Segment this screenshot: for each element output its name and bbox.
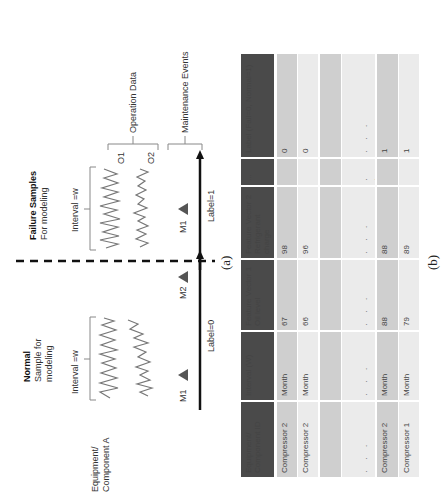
cell-interval: Month	[399, 330, 419, 400]
normal-m1-label: M1	[178, 389, 188, 402]
cell-equipment-id	[320, 400, 341, 477]
caption-b: (b)	[425, 255, 441, 270]
cell-feature-1: 88	[377, 258, 398, 330]
failure-label-value: Label=1	[206, 190, 216, 222]
caption-a: (a)	[218, 256, 234, 270]
cell-ellipsis	[277, 157, 297, 185]
cell-equipment-id: · · ·	[342, 400, 375, 477]
cell-feature-1: 79	[399, 258, 419, 330]
cell-feature-2: 89	[399, 185, 419, 258]
table-row: Compressor 2 Month 67 98 0	[277, 54, 297, 477]
cell-ellipsis	[320, 157, 341, 185]
cell-feature-1: 67	[277, 258, 297, 330]
cell-feature-2: 88	[377, 185, 398, 258]
table-row-ellipsis: · · · · · · · · · · · · · · · · · ·	[342, 54, 375, 477]
table-row: Compressor 1 Month 79 89 1	[399, 54, 419, 477]
cell-feature-2: 98	[277, 185, 297, 258]
header-interval: Interval (W)	[241, 330, 274, 400]
cell-ellipsis	[399, 157, 419, 185]
header-ellipsis: ...	[241, 157, 274, 185]
cell-equipment-id: Compressor 2	[277, 400, 297, 477]
table-row	[320, 54, 341, 477]
figure-canvas: Equipment/ Component A Normal Sample for…	[0, 0, 448, 502]
operation-data-label: Operation Data	[128, 72, 138, 133]
failure-interval-brace	[84, 167, 96, 250]
cell-equipment-id: Compressor 2	[298, 400, 318, 477]
normal-label-value: Label=0	[206, 320, 216, 352]
normal-m2-label: M2	[178, 286, 188, 299]
cell-equipment-id: Compressor 2	[377, 400, 398, 477]
cell-label: 0	[298, 54, 318, 157]
cell-label: 1	[399, 54, 419, 157]
cell-label	[320, 54, 341, 157]
cell-label: 0	[277, 54, 297, 157]
series-o1-label: O1	[116, 152, 126, 164]
normal-o1-waveform	[100, 318, 118, 398]
header-feature-vector-2: Feature Vector 2 Refrigerant charge	[241, 185, 274, 258]
cell-equipment-id: Compressor 1	[399, 400, 419, 477]
normal-m1-marker	[178, 369, 188, 381]
header-feature-vector-1: Feature Vector 1 Oil level	[241, 258, 274, 330]
cell-feature-1: · · ·	[342, 258, 375, 330]
cell-feature-2: 96	[298, 185, 318, 258]
cell-label: · · ·	[342, 54, 375, 157]
cell-feature-1: 66	[298, 258, 318, 330]
cell-feature-1	[320, 258, 341, 330]
cell-interval: Month	[377, 330, 398, 400]
normal-m2-marker	[178, 271, 188, 283]
failure-arrowhead	[196, 150, 204, 159]
cell-feature-2: · · ·	[342, 185, 375, 258]
operation-data-brace	[108, 136, 158, 150]
table-header-row: Equipment/ Component ID Interval (W) Fea…	[241, 54, 274, 477]
header-label: Label (Fail=0, Normal=1)	[241, 54, 274, 157]
table-row: Compressor 2 Month 88 88 1	[377, 54, 398, 477]
header-equipment-id: Equipment/ Component ID	[241, 400, 274, 477]
cell-interval: · · ·	[342, 330, 375, 400]
cell-ellipsis	[298, 157, 318, 185]
table-row: Compressor 2 Month 66 96 0	[298, 54, 318, 477]
failure-m1-marker	[178, 203, 188, 215]
cell-interval	[320, 330, 341, 400]
normal-o2-waveform	[128, 320, 152, 396]
maintenance-events-brace	[168, 136, 202, 150]
failure-m1-label: M1	[178, 220, 188, 233]
timeline-diagram	[0, 0, 240, 502]
cell-ellipsis	[377, 157, 398, 185]
cell-feature-2	[320, 185, 341, 258]
maintenance-events-label: Maintenance Events	[180, 51, 190, 133]
failure-o1-waveform	[100, 169, 120, 248]
series-o2-label: O2	[146, 152, 156, 164]
cell-label: 1	[377, 54, 398, 157]
failure-o2-waveform	[134, 169, 148, 247]
cell-interval: Month	[298, 330, 318, 400]
normal-interval-brace	[84, 317, 96, 400]
cell-ellipsis: · · ·	[342, 157, 375, 185]
cell-interval: Month	[277, 330, 297, 400]
